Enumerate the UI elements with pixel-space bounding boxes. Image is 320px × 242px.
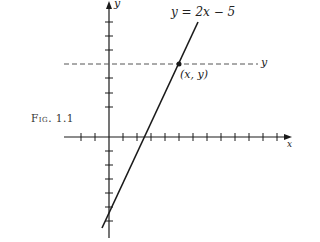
point-label: (x, y) bbox=[180, 68, 208, 81]
intersection-point bbox=[177, 62, 182, 67]
graph-line bbox=[102, 22, 198, 228]
y-axis-arrow-icon bbox=[106, 1, 112, 9]
horizontal-line-label: y bbox=[261, 56, 267, 69]
equation-label: y = 2x − 5 bbox=[171, 5, 235, 19]
y-axis-label: y bbox=[114, 0, 120, 10]
x-axis-label: x bbox=[287, 139, 292, 149]
figure-caption: Fig. 1.1 bbox=[31, 112, 74, 124]
